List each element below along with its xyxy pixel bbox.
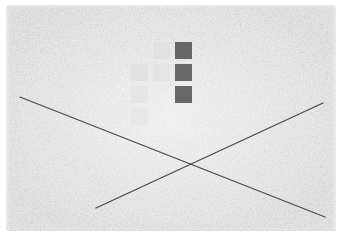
ascending-diagonal xyxy=(96,103,323,208)
descending-diagonal xyxy=(20,97,325,217)
lines-group xyxy=(20,97,325,217)
diagonal-lines-overlay xyxy=(0,0,342,238)
image-canvas xyxy=(0,0,342,238)
